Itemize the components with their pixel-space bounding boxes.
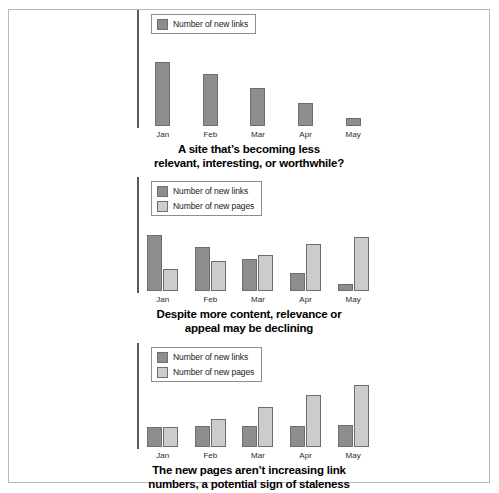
bar-new-links-jan <box>147 427 162 447</box>
x-tick-labels-3: Jan Feb Mar Apr May <box>139 451 377 460</box>
legend-3: Number of new links Number of new pages <box>151 347 262 382</box>
x-tick-may: May <box>329 295 377 304</box>
bar-new-pages-mar <box>258 407 273 447</box>
x-tick-may: May <box>329 451 377 460</box>
bar-new-links-jan <box>155 62 170 126</box>
x-tick-apr: Apr <box>282 451 330 460</box>
bar-new-links-mar <box>250 88 265 126</box>
x-tick-mar: Mar <box>234 451 282 460</box>
legend-entry-new-links: Number of new links <box>157 185 254 197</box>
legend-1: Number of new links <box>151 14 256 34</box>
bar-group-apr <box>282 10 330 126</box>
legend-entry-new-links: Number of new links <box>157 18 248 30</box>
legend-entry-new-pages: Number of new pages <box>157 200 254 212</box>
figure-pages-not-increasing-links: Number of new links Number of new pages <box>9 343 489 488</box>
bar-new-pages-feb <box>211 419 226 447</box>
x-tick-apr: Apr <box>282 295 330 304</box>
legend-label-new-links: Number of new links <box>173 185 248 197</box>
bar-new-links-apr <box>290 273 305 291</box>
bar-new-pages-feb <box>211 261 226 291</box>
x-tick-labels-2: Jan Feb Mar Apr May <box>139 295 377 304</box>
caption-3-line-1: The new pages aren’t increasing link <box>9 464 489 478</box>
bar-new-links-may <box>338 425 353 447</box>
caption-1-line-2: relevant, interesting, or worthwhile? <box>9 157 489 171</box>
bar-new-links-jan <box>147 235 162 291</box>
x-tick-mar: Mar <box>234 130 282 139</box>
bar-group-may <box>329 343 377 447</box>
bar-group-apr <box>282 177 330 291</box>
caption-3: The new pages aren’t increasing link num… <box>9 464 489 491</box>
bar-new-pages-apr <box>306 395 321 447</box>
page-frame: Number of new links <box>8 9 490 483</box>
bar-new-pages-apr <box>306 244 321 291</box>
bar-new-pages-may <box>354 237 369 291</box>
figure-stack: Number of new links <box>9 10 489 482</box>
legend-swatch-new-links-icon <box>157 186 168 197</box>
legend-label-new-links: Number of new links <box>173 18 248 30</box>
x-tick-jan: Jan <box>139 451 187 460</box>
legend-entry-new-links: Number of new links <box>157 351 254 363</box>
legend-entry-new-pages: Number of new pages <box>157 366 254 378</box>
bar-new-links-apr <box>298 103 313 126</box>
x-tick-apr: Apr <box>282 130 330 139</box>
caption-2-line-1: Despite more content, relevance or <box>9 308 489 322</box>
bar-new-pages-jan <box>163 269 178 291</box>
bar-new-links-may <box>346 118 361 126</box>
caption-3-line-2: numbers, a potential sign of staleness <box>9 478 489 492</box>
legend-swatch-new-pages-icon <box>157 367 168 378</box>
plot-area-3: Number of new links Number of new pages <box>137 343 377 449</box>
legend-2: Number of new links Number of new pages <box>151 181 262 216</box>
bar-new-links-feb <box>195 247 210 291</box>
bar-group-may <box>329 177 377 291</box>
x-tick-jan: Jan <box>139 130 187 139</box>
plot-area-2: Number of new links Number of new pages <box>137 177 377 293</box>
bar-new-pages-may <box>354 385 369 447</box>
bar-new-pages-mar <box>258 255 273 291</box>
legend-label-new-pages: Number of new pages <box>173 200 254 212</box>
bar-group-apr <box>282 343 330 447</box>
bar-new-links-feb <box>195 426 210 447</box>
caption-1: A site that’s becoming less relevant, in… <box>9 143 489 170</box>
x-tick-labels-1: Jan Feb Mar Apr May <box>139 130 377 139</box>
plot-area-1: Number of new links <box>137 10 377 128</box>
bar-new-links-feb <box>203 74 218 126</box>
bar-new-links-mar <box>242 259 257 291</box>
x-tick-feb: Feb <box>187 451 235 460</box>
x-tick-feb: Feb <box>187 130 235 139</box>
bar-group-may <box>329 10 377 126</box>
x-tick-jan: Jan <box>139 295 187 304</box>
legend-swatch-new-links-icon <box>157 19 168 30</box>
legend-swatch-new-pages-icon <box>157 201 168 212</box>
caption-2: Despite more content, relevance or appea… <box>9 308 489 335</box>
caption-2-line-2: appeal may be declining <box>9 322 489 336</box>
bar-new-links-mar <box>242 426 257 447</box>
bar-new-links-may <box>338 284 353 291</box>
x-tick-mar: Mar <box>234 295 282 304</box>
figure-more-content-less-relevance: Number of new links Number of new pages <box>9 177 489 342</box>
bar-new-pages-jan <box>163 427 178 447</box>
x-tick-may: May <box>329 130 377 139</box>
bar-new-links-apr <box>290 426 305 447</box>
figure-declining-links: Number of new links <box>9 10 489 170</box>
x-tick-feb: Feb <box>187 295 235 304</box>
legend-label-new-pages: Number of new pages <box>173 366 254 378</box>
legend-swatch-new-links-icon <box>157 352 168 363</box>
legend-label-new-links: Number of new links <box>173 351 248 363</box>
caption-1-line-1: A site that’s becoming less <box>9 143 489 157</box>
